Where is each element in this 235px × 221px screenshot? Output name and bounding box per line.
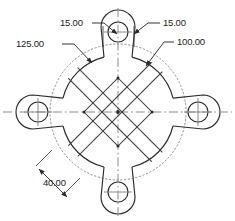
dimension-label-100: 100.00 (177, 36, 205, 47)
leader-100 (146, 42, 174, 66)
leader-125 (62, 44, 92, 63)
dimension-label-40: 40.00 (43, 177, 66, 188)
rib-diagonal-b (62, 52, 186, 176)
dimension-diagonal-offset: 40.00 (36, 150, 80, 197)
rib-diagonal-d (62, 48, 186, 172)
engineering-drawing-svg: 125.00 15.00 15.00 100.00 40.00 (0, 0, 235, 221)
dimension-label-125: 125.00 (16, 38, 44, 49)
dimension-label-15-right: 15.00 (163, 17, 186, 28)
leader-15-right (134, 23, 160, 34)
extension-line-40-b (64, 178, 80, 194)
technical-drawing-canvas: 125.00 15.00 15.00 100.00 40.00 (0, 0, 235, 221)
dimension-main-circle: 100.00 (146, 36, 205, 66)
extension-line-40-a (36, 150, 52, 166)
dimension-label-15-left: 15.00 (60, 17, 83, 28)
dimension-bolt-circle: 125.00 (16, 38, 92, 63)
